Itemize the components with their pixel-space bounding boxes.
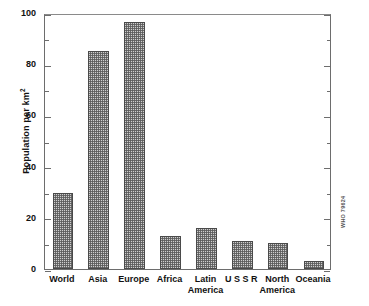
y-axis-tick-label: 60 (10, 111, 36, 120)
y-axis-major-tick (324, 219, 330, 220)
y-axis-major-tick (324, 117, 330, 118)
y-axis-minor-tick (45, 245, 49, 246)
y-axis-major-tick (324, 271, 330, 272)
bar (196, 228, 217, 269)
bar-chart: Population per km2 020406080100 WorldAsi… (0, 0, 369, 306)
y-axis-tick-label: 20 (10, 214, 36, 223)
y-axis-major-tick (45, 117, 51, 118)
y-axis-major-tick (324, 66, 330, 67)
bar (124, 22, 145, 269)
y-axis-title: Population per km2 (21, 61, 31, 201)
y-axis-tick-label: 0 (10, 265, 36, 274)
bar (304, 261, 325, 269)
bar (268, 243, 289, 269)
y-axis-title-exponent: 2 (19, 88, 26, 92)
y-axis-major-tick (324, 168, 330, 169)
x-axis-category-label: Africa (152, 274, 188, 285)
y-axis-minor-tick (45, 40, 49, 41)
y-axis-major-tick (45, 15, 51, 16)
y-axis-tick-label: 40 (10, 163, 36, 172)
y-axis-minor-tick (327, 91, 331, 92)
y-axis-minor-tick (327, 194, 331, 195)
bar (160, 236, 181, 269)
y-axis-major-tick (45, 271, 51, 272)
y-axis-major-tick (45, 168, 51, 169)
y-axis-minor-tick (327, 143, 331, 144)
x-axis-category-label: Latin America (188, 274, 224, 295)
y-axis-minor-tick (45, 143, 49, 144)
y-axis-minor-tick (327, 40, 331, 41)
source-code-annotation: WHO 79624 (340, 182, 346, 228)
x-axis-category-label: U S S R (223, 274, 259, 285)
y-axis-major-tick (45, 219, 51, 220)
y-axis-minor-tick (45, 91, 49, 92)
x-axis-category-label: Asia (80, 274, 116, 285)
y-axis-minor-tick (327, 245, 331, 246)
bar (232, 241, 253, 269)
y-axis-tick-label: 80 (10, 60, 36, 69)
bar (88, 51, 109, 269)
bar (53, 193, 74, 269)
x-axis-category-label: Europe (116, 274, 152, 285)
y-axis-tick-label: 100 (10, 9, 36, 18)
y-axis-major-tick (45, 66, 51, 67)
x-axis-category-label: North America (259, 274, 295, 295)
x-axis-category-label: World (44, 274, 80, 285)
x-axis-category-label: Oceania (295, 274, 331, 285)
y-axis-major-tick (324, 15, 330, 16)
plot-area (44, 14, 331, 270)
y-axis-minor-tick (45, 194, 49, 195)
